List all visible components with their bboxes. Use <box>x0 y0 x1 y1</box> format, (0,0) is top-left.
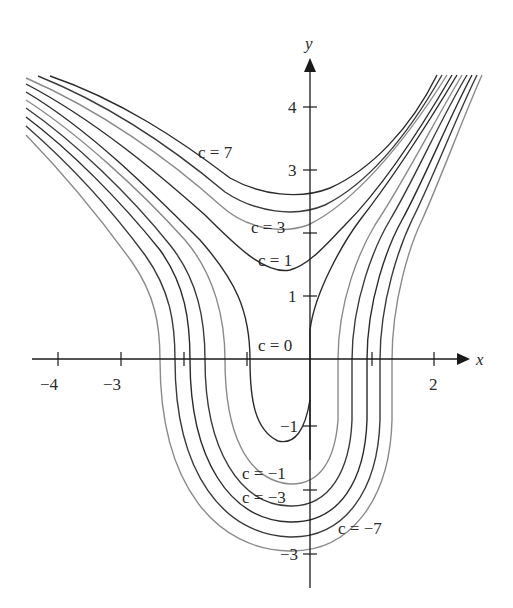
y-tick-label: 3 <box>288 161 297 180</box>
label-c-7: c = 7 <box>198 143 233 162</box>
x-tick-label: −4 <box>40 375 59 394</box>
x-axis-label: x <box>475 350 484 369</box>
y-tick-label: 1 <box>288 287 297 306</box>
x-axis: x −4 −3 2 <box>32 350 484 394</box>
curve-c-0-right <box>310 75 457 460</box>
y-axis-arrow-icon <box>304 58 316 72</box>
y-tick-label: −1 <box>280 417 298 436</box>
x-tick-label: −3 <box>103 375 121 394</box>
label-c-m7: c = −7 <box>338 519 382 538</box>
label-c-m3: c = −3 <box>242 488 286 507</box>
curve-c-m3 <box>26 75 472 522</box>
label-c-m1: c = −1 <box>242 464 286 483</box>
label-c-3: c = 3 <box>251 218 285 237</box>
x-tick-label: 2 <box>429 375 438 394</box>
x-axis-arrow-icon <box>457 353 470 365</box>
label-c-0: c = 0 <box>258 336 292 355</box>
y-tick-label: −3 <box>280 545 298 564</box>
y-tick-label: 4 <box>288 98 297 117</box>
y-axis-label: y <box>303 34 313 53</box>
label-c-1: c = 1 <box>258 251 292 270</box>
solution-curves-chart: x −4 −3 2 y 4 3 1 −1 −3 c = 7 c = 3 c = … <box>0 0 513 608</box>
